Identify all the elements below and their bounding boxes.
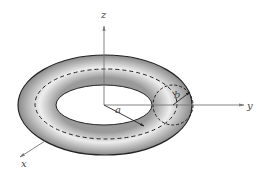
z-axis-label: z xyxy=(100,9,107,20)
x-axis xyxy=(20,141,45,157)
y-axis-label: y xyxy=(246,100,253,111)
radius-b-label: b xyxy=(174,89,180,100)
torus-diagram: z y x a b xyxy=(0,0,272,171)
radius-a-label: a xyxy=(115,104,121,115)
x-axis-label: x xyxy=(21,158,27,169)
